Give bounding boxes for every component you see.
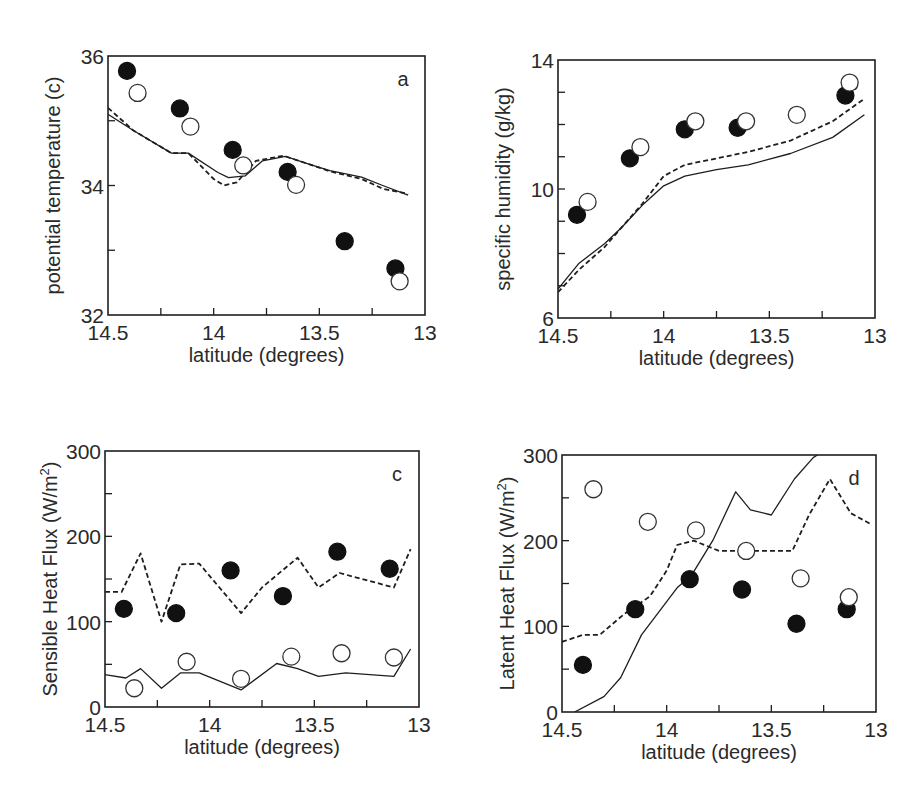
- y-tick-label: 200: [523, 530, 558, 553]
- x-tick-label: 14: [655, 718, 679, 741]
- x-axis-label: latitude (degrees): [641, 741, 797, 763]
- y-tick-label: 300: [523, 444, 558, 467]
- axes-frame: [562, 455, 876, 712]
- filled-circle-marker: [788, 615, 805, 632]
- open-circle-marker: [792, 570, 809, 587]
- open-circle-marker: [639, 513, 656, 530]
- open-circle-marker: [585, 481, 602, 498]
- filled-circle-marker: [574, 656, 591, 673]
- panel-label: d: [848, 467, 859, 489]
- x-tick-label: 13.5: [751, 718, 792, 741]
- filled-circle-marker: [627, 601, 644, 618]
- x-tick-label: 13: [864, 718, 887, 741]
- open-circle-marker: [840, 589, 857, 606]
- open-circle-marker: [687, 522, 704, 539]
- figure-2x2-panels: 14.51413.513323436latitude (degrees)pote…: [0, 0, 919, 789]
- filled-circle-marker: [681, 571, 698, 588]
- panel-d-latent-heat-flux: 14.51413.5130100200300latitude (degrees)…: [0, 0, 919, 789]
- filled-circle-marker: [734, 581, 751, 598]
- y-tick-label: 0: [546, 701, 558, 724]
- open-circle-marker: [738, 542, 755, 559]
- plot-area: [562, 455, 870, 712]
- y-axis-label: Latent Heat Flux (W/m2): [494, 477, 518, 691]
- model-dashed-line: [562, 479, 870, 642]
- y-tick-label: 100: [523, 615, 558, 638]
